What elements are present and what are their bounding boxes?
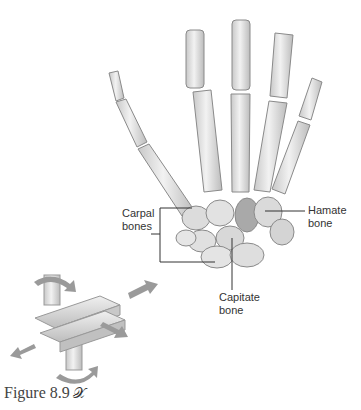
capitate-bone-label: Capitate bone	[219, 291, 260, 317]
figure-caption: Figure 8.9𝒳	[4, 384, 86, 402]
gliding-joint-illustration	[10, 275, 158, 384]
carpal-bones-label: Carpal bones	[122, 207, 154, 233]
hamate-bone-label: Hamate bone	[308, 204, 347, 230]
hand-skeleton-illustration	[0, 0, 361, 410]
middle-finger-bones	[231, 20, 250, 192]
carpal-bones-cluster	[176, 197, 294, 268]
diagram-stage: Carpal bones Hamate bone Capitate bone F…	[0, 0, 361, 410]
index-finger-bones	[186, 30, 222, 192]
thumb-bones	[109, 71, 194, 216]
dancer-icon: 𝒳	[73, 384, 86, 402]
